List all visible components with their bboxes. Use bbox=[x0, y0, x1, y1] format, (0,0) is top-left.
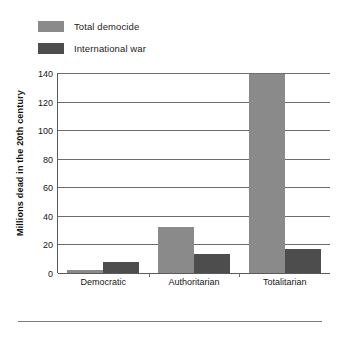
legend-item-total-democide: Total democide bbox=[38, 18, 146, 35]
bar-chart: Millions dead in the 20th century 020406… bbox=[0, 62, 340, 297]
y-axis-tick-label: 80 bbox=[43, 155, 53, 165]
x-axis-tick-mark bbox=[239, 273, 240, 277]
bar-group: Totalitarian bbox=[239, 73, 330, 273]
bar bbox=[158, 227, 194, 273]
y-axis-tick-label: 140 bbox=[38, 69, 53, 79]
bar bbox=[67, 270, 103, 273]
y-axis-tick-label: 20 bbox=[43, 240, 53, 250]
y-axis-tick-label: 120 bbox=[38, 98, 53, 108]
x-axis-tick-label: Totalitarian bbox=[263, 277, 307, 287]
legend-swatch-total-democide bbox=[38, 21, 64, 32]
plot-area: 020406080100120140 DemocraticAuthoritari… bbox=[57, 73, 330, 273]
x-axis-tick-label: Democratic bbox=[81, 277, 127, 287]
bar bbox=[285, 249, 321, 273]
bar bbox=[194, 254, 230, 273]
legend-label-international-war: International war bbox=[74, 43, 146, 54]
bar-group: Democratic bbox=[58, 73, 149, 273]
bar bbox=[103, 262, 139, 273]
y-axis-tick-label: 60 bbox=[43, 183, 53, 193]
y-axis-tick-label: 100 bbox=[38, 126, 53, 136]
legend-label-total-democide: Total democide bbox=[74, 21, 139, 32]
x-axis-tick-mark bbox=[149, 273, 150, 277]
y-axis-title: Millions dead in the 20th century bbox=[15, 83, 25, 243]
y-axis-tick-label: 40 bbox=[43, 212, 53, 222]
bar-group: Authoritarian bbox=[149, 73, 240, 273]
y-axis-tick-label: 0 bbox=[48, 269, 53, 279]
legend-swatch-international-war bbox=[38, 43, 64, 54]
x-axis-tick-label: Authoritarian bbox=[168, 277, 219, 287]
legend-item-international-war: International war bbox=[38, 40, 146, 57]
x-axis-line bbox=[58, 273, 330, 274]
chart-legend: Total democide International war bbox=[38, 18, 146, 62]
footer-divider bbox=[0, 312, 340, 330]
bar bbox=[249, 74, 285, 273]
footer-rule-line bbox=[18, 321, 322, 322]
